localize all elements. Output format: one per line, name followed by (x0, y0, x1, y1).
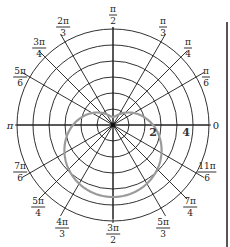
numerator: π (109, 5, 117, 16)
denominator: 6 (17, 78, 23, 88)
angle-label-pi-2: π2 (109, 5, 117, 26)
numerator: 3π (32, 38, 46, 49)
denominator: 2 (110, 16, 116, 26)
numerator: 5π (13, 67, 27, 78)
numerator: 11π (197, 162, 216, 173)
pole-point (111, 123, 115, 127)
angle-label-5pi-4: 5π4 (31, 197, 45, 218)
denominator: 3 (160, 229, 166, 239)
denominator: 4 (185, 49, 191, 59)
angle-label-0: 0 (213, 120, 219, 131)
angle-label-3pi-2: 3π2 (106, 224, 120, 245)
denominator: 6 (203, 78, 209, 88)
denominator: 4 (35, 208, 41, 218)
numerator: 2π (56, 17, 70, 28)
angle-label-pi: π (7, 120, 14, 131)
angle-label-11pi-6: 11π6 (197, 162, 216, 183)
angle-label-3pi-4: 3π4 (32, 38, 46, 59)
frame-border-bar (226, 22, 228, 247)
angle-label-pi-4: π4 (184, 38, 192, 59)
numerator: 3π (106, 224, 120, 235)
angle-label-2pi-3: 2π3 (56, 17, 70, 38)
denominator: 3 (59, 229, 65, 239)
radial-label-4: 4 (182, 126, 190, 139)
denominator: 3 (60, 28, 66, 38)
angle-label-pi-3: π3 (159, 17, 167, 38)
denominator: 4 (187, 208, 193, 218)
angle-label-5pi-6: 5π6 (13, 67, 27, 88)
denominator: 6 (204, 173, 210, 183)
radial-label-2: 2 (149, 126, 157, 139)
numerator: 7π (183, 197, 197, 208)
denominator: 3 (160, 28, 166, 38)
angle-label-7pi-4: 7π4 (183, 197, 197, 218)
numerator: π (202, 67, 210, 78)
angle-label-7pi-6: 7π6 (13, 162, 27, 183)
numerator: π (184, 38, 192, 49)
angle-label-4pi-3: 4π3 (55, 218, 69, 239)
angle-label-5pi-3: 5π3 (156, 218, 170, 239)
denominator: 2 (110, 235, 116, 245)
numerator: 5π (156, 218, 170, 229)
numerator: 5π (31, 197, 45, 208)
numerator: 7π (13, 162, 27, 173)
numerator: 4π (55, 218, 69, 229)
numerator: π (159, 17, 167, 28)
denominator: 4 (36, 49, 42, 59)
denominator: 6 (17, 173, 23, 183)
angle-label-pi-6: π6 (202, 67, 210, 88)
